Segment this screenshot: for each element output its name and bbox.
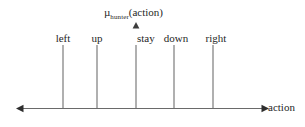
tick-label-down: down (164, 33, 188, 44)
diagram-canvas (0, 0, 305, 127)
axis-label-action: action (268, 102, 295, 113)
tick-label-up: up (92, 33, 103, 44)
left-arrow-icon (16, 105, 24, 112)
tick-label-left: left (56, 33, 71, 44)
membership-function-figure: µhunter(action) left up stay down right … (0, 0, 305, 127)
up-arrow-icon (133, 22, 140, 29)
tick-label-stay: stay (137, 33, 155, 44)
tick-label-right: right (206, 33, 227, 44)
